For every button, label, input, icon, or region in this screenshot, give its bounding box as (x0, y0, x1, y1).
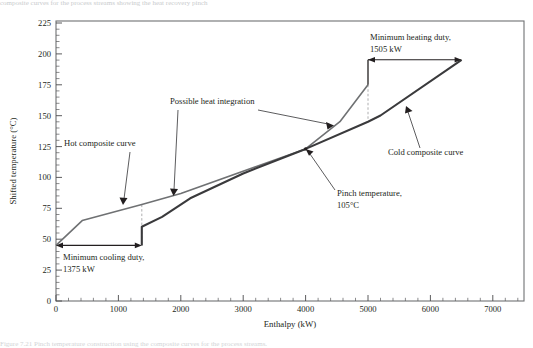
minimum-cooling-duty-arrow (56, 243, 142, 249)
y-tick-label: 50 (42, 234, 51, 244)
y-tick-label: 225 (38, 18, 51, 28)
annotation-text: Hot composite curve (64, 138, 136, 148)
x-axis-tick-labels: 0 1000 2000 3000 4000 5000 6000 7000 (54, 304, 502, 314)
annotation-pinch-temperature: Pinch temperature, 105°C (306, 149, 402, 210)
annotation-line-2: 105°C (337, 200, 359, 210)
x-tick-label: 5000 (359, 304, 376, 314)
x-tick-label: 2000 (172, 304, 189, 314)
x-tick-label: 7000 (484, 304, 501, 314)
x-tick-label: 6000 (422, 304, 439, 314)
x-axis-label: Enthalpy (kW) (264, 319, 317, 329)
y-tick-label: 100 (38, 172, 51, 182)
y-tick-label: 0 (47, 296, 51, 306)
annotation-line-1: Minimum heating duty, (370, 32, 451, 42)
y-tick-label: 125 (38, 142, 51, 152)
annotation-line-1: Possible heat integration (170, 96, 255, 106)
y-tick-label: 75 (42, 203, 51, 213)
annotation-line-1: Pinch temperature, (337, 188, 402, 198)
cut-off-caption-text: Figure 7.21 Pinch temperature constructi… (0, 340, 533, 348)
minimum-heating-duty-arrow (368, 57, 462, 85)
x-axis-ticks (56, 295, 493, 301)
annotation-minimum-heating-duty: Minimum heating duty, 1505 kW (370, 32, 451, 54)
hot-composite-curve-line (56, 85, 368, 246)
annotation-hot-composite-curve: Hot composite curve (64, 138, 136, 205)
annotation-line-1: Minimum cooling duty, (63, 252, 144, 262)
x-tick-label: 4000 (297, 304, 314, 314)
y-tick-label: 150 (38, 111, 51, 121)
y-axis-ticks (56, 23, 62, 301)
annotation-line-2: 1505 kW (370, 44, 403, 54)
x-tick-label: 0 (54, 304, 58, 314)
annotation-line-2: 1375 kW (63, 264, 96, 274)
y-axis-label: Shifted temperature (°C) (8, 117, 18, 204)
dashed-drop-lines (142, 85, 368, 246)
composite-curves-figure: 0 25 50 75 100 125 150 175 200 225 (0, 0, 533, 348)
annotation-cold-composite-curve: Cold composite curve (388, 106, 464, 157)
annotation-minimum-cooling-duty: Minimum cooling duty, 1375 kW (63, 252, 144, 274)
y-tick-label: 175 (38, 80, 51, 90)
x-tick-label: 1000 (110, 304, 127, 314)
annotation-text: Cold composite curve (388, 147, 464, 157)
y-tick-label: 200 (38, 49, 51, 59)
y-tick-label: 25 (42, 265, 51, 275)
x-tick-label: 3000 (235, 304, 252, 314)
y-axis-tick-labels: 0 25 50 75 100 125 150 175 200 225 (38, 18, 51, 306)
